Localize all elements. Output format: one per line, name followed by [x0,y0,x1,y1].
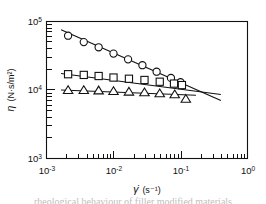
y-tick-label: 104 [28,84,43,96]
data-series-layer [61,30,221,103]
x-axis-symbol: γ̇ [133,183,139,195]
data-point-triangle [79,86,88,94]
y-axis-title: η(N·s/m²) [4,69,16,112]
log-log-chart: 105 104 103 10-3 10-2 10-1 100 [0,0,266,204]
data-point-square [64,71,71,78]
data-point-circle [153,68,160,75]
data-point-circle [139,62,146,69]
x-tick-label: 10-2 [106,165,123,177]
svg-text:η(N·s/m²): η(N·s/m²) [4,69,16,112]
data-point-square [110,74,117,81]
data-point-square [141,76,148,83]
data-point-triangle [155,89,164,97]
y-tick-label: 105 [28,16,43,28]
y-axis-symbol: η [4,105,16,111]
data-point-square [156,78,163,85]
figure-caption-partial: rheological behaviour of filler modified… [0,196,266,204]
data-point-triangle [94,86,103,94]
y-tick-label: 103 [28,153,43,165]
data-point-square [80,71,87,78]
x-tick-label: 10-1 [173,165,190,177]
data-point-triangle [109,87,118,95]
x-axis-title: γ̇(s⁻¹) [133,183,161,195]
x-tick-labels: 10-3 10-2 10-1 100 [39,165,256,177]
data-point-circle [64,32,71,39]
data-point-circle [110,50,117,57]
svg-text:γ̇(s⁻¹): γ̇(s⁻¹) [133,183,161,195]
x-tick-label: 100 [241,165,256,177]
x-tick-label: 10-3 [39,165,56,177]
plot-frame [47,22,248,159]
y-axis-ticks [47,22,55,159]
data-point-circle [95,44,102,51]
data-point-triangle [181,94,190,102]
data-point-square [125,75,132,82]
x-axis-units: (s⁻¹) [142,185,161,195]
data-point-square [95,72,102,79]
data-point-square [170,80,177,87]
figure-panel: 105 104 103 10-3 10-2 10-1 100 [0,0,266,204]
y-tick-labels: 105 104 103 [28,16,43,165]
y-axis-units: (N·s/m²) [6,69,16,102]
data-point-square [178,81,185,88]
data-point-triangle [140,88,149,96]
data-point-circle [124,56,131,63]
data-point-circle [80,39,87,46]
x-axis-ticks [47,151,248,159]
data-point-triangle [124,87,133,95]
